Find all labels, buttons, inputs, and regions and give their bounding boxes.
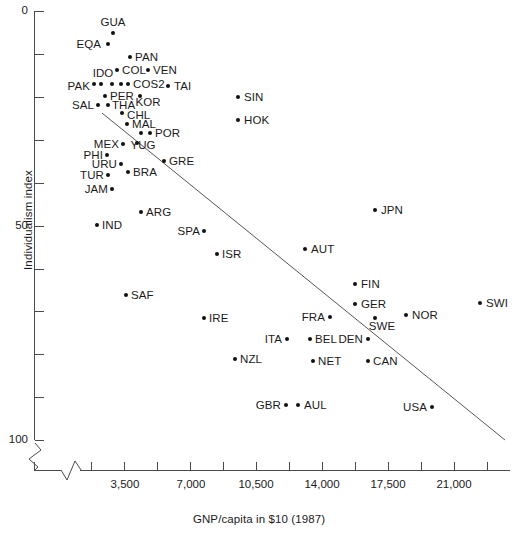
data-point-ind [95,223,99,227]
data-point-fra [328,315,332,319]
data-point-label-net: NET [318,356,341,367]
data-point-label-bel: BEL [315,334,337,345]
data-point-label-eqa: EQA [76,39,101,50]
data-point-aul [296,403,300,407]
data-point-hok [236,118,240,122]
data-point-label-tur: TUR [80,170,104,181]
data-point-label-sin: SIN [244,92,263,103]
data-point-fin [353,282,357,286]
data-point-label-mal: MAL [132,119,156,130]
data-point-label-arg: ARG [146,207,171,218]
data-point-label-sal: SAL [72,100,94,111]
data-point-label-kor: KOR [135,97,160,108]
data-point-label-saf: SAF [131,290,154,301]
data-point-label-swe: SWE [369,321,396,332]
data-point-label-can: CAN [373,356,398,367]
data-point-mex [121,142,125,146]
data-point-cos [119,82,123,86]
data-point-gre [162,159,166,163]
data-point-label-spa: SPA [178,226,200,237]
data-point-net [311,359,315,363]
data-point-pan [128,55,132,59]
data-point-bel [308,337,312,341]
data-point-uru [119,162,123,166]
data-point-ire [202,316,206,320]
data-point-ido2 [110,82,114,86]
data-point-por [148,131,152,135]
data-point-eqa [106,42,110,46]
data-point-label-den: DEN [338,334,363,345]
data-point-ita [285,337,289,341]
data-point-sin [236,95,240,99]
data-point-label-usa: USA [403,402,427,413]
data-point-label-hok: HOK [244,115,269,126]
data-point-label-isr: ISR [222,249,241,260]
data-point-label-ind: IND [102,220,122,231]
data-point-mal [125,122,129,126]
data-point-ido [99,82,103,86]
data-point-tur [106,173,110,177]
data-point-spa [202,229,206,233]
data-point-label-aut: AUT [311,244,334,255]
data-point-label-col: COL [122,65,146,76]
data-point-jam [110,187,114,191]
data-point-label-nor: NOR [412,310,438,321]
data-point-nor [404,313,408,317]
data-point-label-fra: FRA [302,312,325,323]
data-point-label-gua: GUA [100,17,125,28]
data-point-pak [92,82,96,86]
data-point-por2 [139,131,143,135]
data-point-label-tai: TAI [174,81,191,92]
data-point-label-swi: SWI [486,298,508,309]
data-point-label-nzl: NZL [240,354,262,365]
data-point-den [366,337,370,341]
data-point-jpn [373,208,377,212]
data-point-col [115,68,119,72]
data-point-label-aul: AUL [304,400,327,411]
data-point-saf [124,293,128,297]
data-point-label-ven: VEN [153,65,177,76]
data-point-label-ido: IDO [93,68,114,79]
data-point-tai [166,84,170,88]
data-point-label-bra: BRA [133,167,157,178]
data-point-cos2 [126,82,130,86]
data-point-label-ire: IRE [209,313,228,324]
data-point-label-por: POR [155,128,180,139]
data-point-label-jam: JAM [85,184,108,195]
data-point-aut [303,247,307,251]
scatter-plot-figure: 0 50 100 3,500 7,000 10,500 14,000 17,50… [0,0,518,538]
data-point-label-pan: PAN [135,52,158,63]
data-point-label-yug: YUG [130,140,155,151]
data-point-swi [478,301,482,305]
data-point-label-jpn: JPN [381,205,403,216]
data-point-label-gbr: GBR [256,400,281,411]
data-point-phi [105,153,109,157]
data-point-label-pak: PAK [68,81,90,92]
data-point-ger [353,302,357,306]
data-point-ven [146,68,150,72]
data-point-label-ger: GER [361,299,386,310]
data-point-label-ita: ITA [265,334,282,345]
data-point-can [366,359,370,363]
data-point-per [103,94,107,98]
data-point-nzl [233,357,237,361]
data-point-tha [106,103,110,107]
data-point-bra [126,170,130,174]
data-point-label-cos2: COS2 [133,79,165,90]
data-point-usa [430,405,434,409]
data-point-label-fin: FIN [361,279,380,290]
data-point-gbr [284,403,288,407]
data-point-sal [96,103,100,107]
data-points-layer: GUAEQAPANCOLVENIDOCOS2PAKTAIPERKORSALTHA… [0,0,518,538]
data-point-chl [120,111,124,115]
data-point-label-gre: GRE [169,156,194,167]
data-point-gua [111,31,115,35]
data-point-arg [139,210,143,214]
data-point-isr [215,252,219,256]
